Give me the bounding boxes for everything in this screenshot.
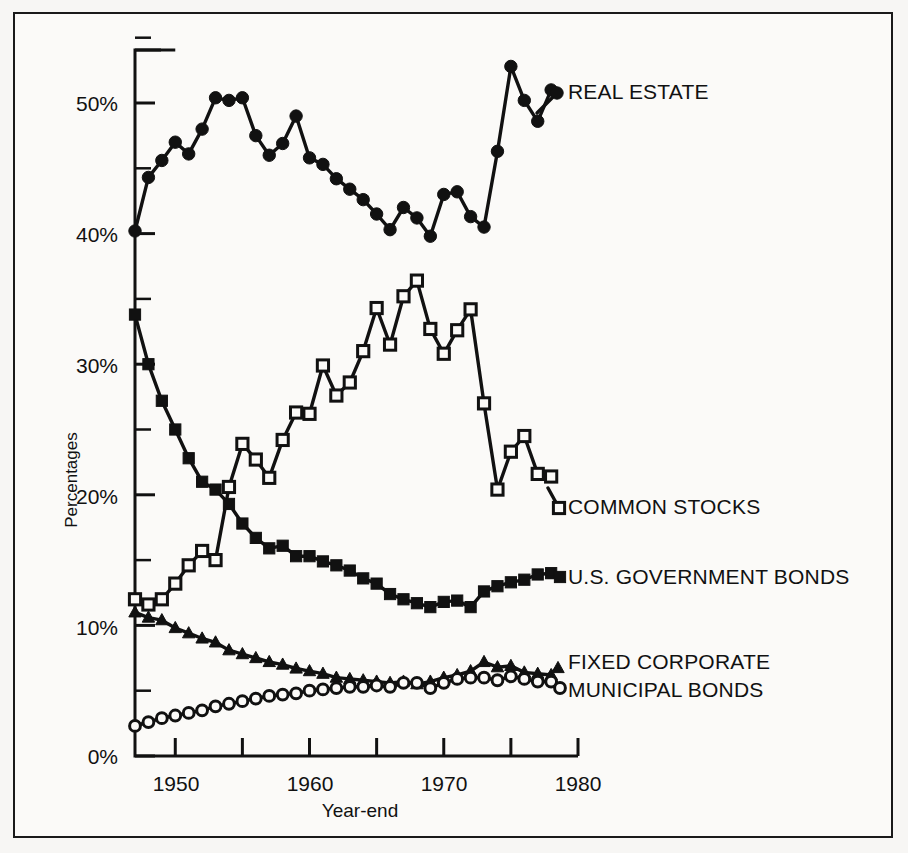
x-tick-label-1950: 1950 <box>136 772 216 796</box>
series-label-us-government-bonds: U.S. GOVERNMENT BONDS <box>568 565 850 589</box>
y-axis-title: Percentages <box>62 400 82 560</box>
x-tick-label-1960: 1960 <box>270 772 350 796</box>
y-tick-label-10: 10% <box>56 616 118 640</box>
y-tick-label-50: 50% <box>56 92 118 116</box>
x-axis-title: Year-end <box>280 800 440 822</box>
series-label-real-estate: REAL ESTATE <box>568 80 709 104</box>
chart-plot-area <box>0 0 908 853</box>
y-tick-label-40: 40% <box>56 223 118 247</box>
series-label-fixed-corporate: FIXED CORPORATE <box>568 650 770 674</box>
series-municipal-bonds <box>130 671 557 731</box>
x-tick-label-1980: 1980 <box>538 772 618 796</box>
y-tick-label-30: 30% <box>56 354 118 378</box>
chart-figure: 50% 40% 30% 20% 10% 0% 1950 1960 1970 19… <box>0 0 908 853</box>
series-label-common-stocks: COMMON STOCKS <box>568 495 760 519</box>
series-label-municipal-bonds: MUNICIPAL BONDS <box>568 678 764 702</box>
x-tick-label-1970: 1970 <box>404 772 484 796</box>
series-real-estate <box>129 60 558 242</box>
y-tick-label-0: 0% <box>56 745 118 769</box>
series-common-stocks <box>129 275 556 610</box>
